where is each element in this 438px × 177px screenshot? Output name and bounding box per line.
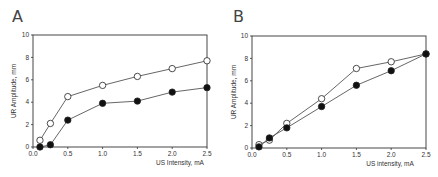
x-tick-label: 2.0 xyxy=(387,151,396,158)
data-point-open xyxy=(47,120,53,126)
x-tick-label: 1.0 xyxy=(98,150,107,157)
panel-a: A02468100.00.51.01.52.02.5US Intensity, … xyxy=(10,7,212,167)
x-tick-label: 0.5 xyxy=(282,151,291,158)
x-tick-label: 2.5 xyxy=(202,150,211,157)
data-point-filled xyxy=(388,68,394,74)
data-point-filled xyxy=(169,89,175,95)
x-tick-label: 2.5 xyxy=(421,151,430,158)
y-tick-label: 6 xyxy=(25,76,29,83)
x-tick-label: 2.0 xyxy=(168,150,177,157)
y-tick-label: 6 xyxy=(244,77,248,84)
y-tick-label: 4 xyxy=(25,98,29,105)
data-point-filled xyxy=(353,82,359,88)
x-tick-label: 0.5 xyxy=(63,150,72,157)
data-point-filled xyxy=(266,135,272,141)
data-point-open xyxy=(204,58,210,64)
data-point-filled xyxy=(37,144,43,150)
x-tick-label: 1.5 xyxy=(352,151,361,158)
data-point-open xyxy=(169,65,175,71)
x-tick-label: 1.0 xyxy=(317,151,326,158)
y-tick-label: 2 xyxy=(244,122,248,129)
data-point-filled xyxy=(47,142,53,148)
data-point-filled xyxy=(65,117,71,123)
data-point-filled xyxy=(423,51,429,57)
panel-letter: B xyxy=(233,7,244,26)
data-point-filled xyxy=(256,144,262,150)
data-point-filled xyxy=(99,100,105,106)
y-tick-label: 10 xyxy=(22,31,30,38)
data-point-filled xyxy=(204,84,210,90)
y-tick-label: 2 xyxy=(25,121,29,128)
series-line-filled xyxy=(259,54,426,147)
data-point-filled xyxy=(318,103,324,109)
x-tick-label: 1.5 xyxy=(133,150,142,157)
data-point-open xyxy=(388,59,394,65)
y-axis-label: UR Amplitude, mm xyxy=(10,64,18,118)
x-tick-label: 0.0 xyxy=(247,151,256,158)
x-tick-label: 0.0 xyxy=(28,150,37,157)
data-point-open xyxy=(65,93,71,99)
data-point-open xyxy=(37,137,43,143)
series-line-open xyxy=(40,61,207,141)
panel-letter: A xyxy=(12,7,23,26)
data-point-filled xyxy=(284,125,290,131)
x-axis-label: US Intensity, mA xyxy=(156,159,205,167)
data-point-open xyxy=(134,73,140,79)
data-point-filled xyxy=(134,98,140,104)
data-point-open xyxy=(99,82,105,88)
y-axis-label: UR Amplitude, mm xyxy=(230,65,238,119)
series-line-open xyxy=(259,54,426,145)
figure: A02468100.00.51.01.52.02.5US Intensity, … xyxy=(0,0,438,177)
data-point-open xyxy=(353,65,359,71)
y-tick-label: 10 xyxy=(241,32,249,39)
panel-b: B02468100.00.51.01.52.02.5US intensity, … xyxy=(230,7,431,168)
y-tick-label: 4 xyxy=(244,99,248,106)
y-tick-label: 8 xyxy=(244,55,248,62)
x-axis-label: US intensity, mA xyxy=(366,160,414,168)
data-point-open xyxy=(318,96,324,102)
y-tick-label: 8 xyxy=(25,54,29,61)
